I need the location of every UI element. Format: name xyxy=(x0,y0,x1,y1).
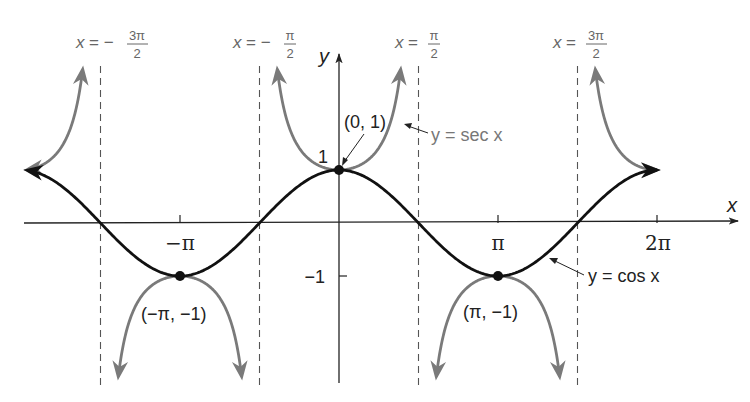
tick-label-ym1: −1 xyxy=(304,267,325,287)
svg-text:π: π xyxy=(286,28,295,43)
tick-label-2pi: 2π xyxy=(645,231,671,255)
cos-curve-label: y = cos x xyxy=(588,266,660,286)
x-axis xyxy=(24,221,738,223)
svg-text:=: = xyxy=(566,33,576,52)
point-label-0-1-leader xyxy=(344,134,364,162)
asymptote-label-neg-3pi-2: x = − 3π 2 xyxy=(75,28,148,61)
axes xyxy=(24,54,738,383)
svg-text:x: x xyxy=(394,33,404,52)
svg-text:3π: 3π xyxy=(588,28,604,43)
cos-label-leader xyxy=(555,261,584,275)
svg-text:x: x xyxy=(232,33,242,52)
svg-text:2: 2 xyxy=(592,46,599,61)
y-axis-label: y xyxy=(317,45,330,67)
svg-text:=: = xyxy=(408,33,418,52)
sec-curve-label: y = sec x xyxy=(431,125,503,145)
sec-branch xyxy=(436,276,559,377)
point-label-neg-pi-neg-1: (−π, −1) xyxy=(141,304,206,324)
point-label-0-1: (0, 1) xyxy=(344,112,386,132)
svg-text:x: x xyxy=(552,33,562,52)
svg-text:2: 2 xyxy=(286,46,293,61)
svg-text:3π: 3π xyxy=(129,28,145,43)
key-point-marker xyxy=(334,165,344,175)
asymptote-label-neg-pi-2: x = − π 2 xyxy=(232,28,296,61)
tick-label-neg-pi: −π xyxy=(165,231,195,255)
sec-branch xyxy=(595,69,657,170)
svg-text:= −: = − xyxy=(246,33,271,52)
sec-branch xyxy=(118,276,241,377)
svg-text:2: 2 xyxy=(133,46,140,61)
sec-branch xyxy=(27,69,82,169)
tick-label-y1: 1 xyxy=(318,147,328,167)
cos-leader-arrowhead-icon xyxy=(549,258,558,264)
tick-label-pi: π xyxy=(491,231,504,255)
key-point-marker xyxy=(175,271,185,281)
svg-text:x: x xyxy=(75,33,85,52)
svg-text:= −: = − xyxy=(89,33,114,52)
x-axis-label: x xyxy=(726,194,738,216)
svg-text:2: 2 xyxy=(430,46,437,61)
secant-cosine-graph: x y −π π 2π 1 −1 x = − 3π 2 x = − π 2 x … xyxy=(0,0,750,402)
asymptote-label-pi-2: x = π 2 xyxy=(394,28,440,61)
sec-leader-arrowhead-icon xyxy=(404,123,412,129)
key-point-marker xyxy=(493,271,503,281)
asymptote-label-3pi-2: x = 3π 2 xyxy=(552,28,607,61)
svg-text:π: π xyxy=(430,28,439,43)
point-label-pi-neg-1: (π, −1) xyxy=(463,302,518,322)
